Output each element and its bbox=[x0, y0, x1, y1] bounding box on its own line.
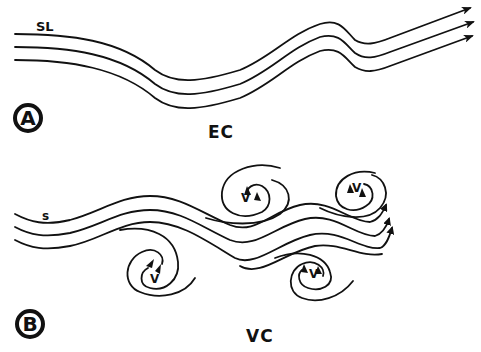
panel-a-badge: A bbox=[13, 103, 43, 133]
streamline-a-1 bbox=[15, 8, 470, 80]
panel-a-caption: EC bbox=[208, 124, 234, 141]
panel-b-streamlines bbox=[15, 196, 392, 269]
streamline-b-4 bbox=[240, 245, 382, 269]
flow-diagram bbox=[0, 0, 481, 352]
streamline-label-b: s bbox=[42, 210, 49, 222]
vortex-3-label: V bbox=[150, 273, 159, 285]
vortex-1-label: V bbox=[241, 192, 250, 204]
vortex-4-label: V bbox=[309, 268, 318, 280]
streamline-label-a: SL bbox=[36, 20, 54, 33]
streamline-b-3 bbox=[15, 222, 392, 260]
panel-b-badge: B bbox=[15, 309, 45, 339]
panel-a-streamlines bbox=[15, 8, 473, 108]
panel-b-caption: VC bbox=[246, 328, 274, 345]
vortex-2-label: V bbox=[352, 182, 361, 194]
